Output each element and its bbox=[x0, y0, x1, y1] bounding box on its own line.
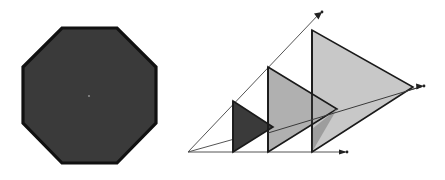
similar-triangles-figure-group bbox=[188, 11, 425, 155]
triangle-large-shape bbox=[312, 30, 413, 152]
marker-dot-baseline bbox=[346, 151, 349, 154]
octagon-center-dot bbox=[88, 95, 90, 97]
marker-dot-upper bbox=[321, 11, 324, 14]
geometry-figures-svg bbox=[0, 0, 445, 180]
figure-canvas: Geometry figures: regular octagon and si… bbox=[0, 0, 445, 180]
octagon-figure-group bbox=[23, 28, 156, 163]
triangle-small-shape bbox=[233, 101, 273, 152]
marker-dot-right bbox=[423, 85, 426, 88]
